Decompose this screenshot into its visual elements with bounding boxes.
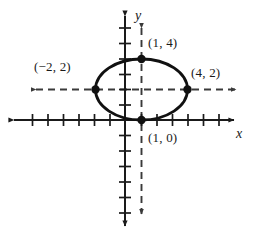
point-left-vertex bbox=[91, 85, 99, 93]
figure-canvas: (1, 4) (−2, 2) (4, 2) (1, 0) x y bbox=[0, 0, 256, 234]
y-axis-label: y bbox=[135, 9, 141, 23]
point-top-vertex bbox=[137, 55, 145, 63]
point-label-left-vertex: (−2, 2) bbox=[34, 60, 71, 73]
point-right-vertex bbox=[183, 85, 191, 93]
ellipse-plot bbox=[0, 0, 256, 234]
x-axis-label: x bbox=[236, 127, 242, 141]
point-label-right-vertex: (4, 2) bbox=[191, 66, 220, 79]
point-bottom-vertex bbox=[137, 116, 145, 124]
point-label-top-vertex: (1, 4) bbox=[148, 36, 177, 49]
point-label-bottom-vertex: (1, 0) bbox=[148, 131, 177, 144]
